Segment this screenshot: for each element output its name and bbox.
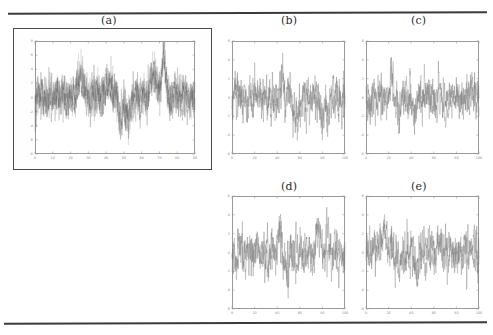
y-tick-label-e-3: 0 (355, 251, 364, 255)
x-tick-label-a-6: 60 (139, 156, 143, 160)
x-tick-label-d-2: 40 (275, 311, 279, 315)
y-tick-label-d-4: 2 (221, 232, 230, 236)
x-tick-label-a-0: 0 (34, 156, 36, 160)
y-tick-label-d-3: 0 (221, 251, 230, 255)
bottom-horizontal-rule (4, 321, 487, 324)
y-tick-label-a-0: -8 (24, 152, 33, 156)
y-tick-label-e-4: 2 (355, 232, 364, 236)
y-tick-label-e-6: 6 (355, 194, 364, 198)
chart-panel-a: 0102030405060708090-8-6-4-202468 (35, 41, 195, 154)
y-tick-label-a-1: -6 (24, 138, 33, 142)
y-tick-label-b-0: -6 (221, 152, 230, 156)
y-tick-label-c-4: 2 (355, 77, 364, 81)
plot-traces-b (232, 41, 345, 154)
x-tick-label-a-7: 70 (157, 156, 161, 160)
caption-e: (e) (411, 180, 427, 193)
x-tick-label-c-1: 20 (386, 156, 390, 160)
x-tick-label-d-5: 100 (342, 311, 348, 315)
trace-b-2 (232, 53, 345, 141)
x-tick-label-e-3: 60 (432, 311, 436, 315)
chart-panel-b: 020406080100-6-4-20246 (232, 41, 345, 154)
y-tick-label-a-3: -2 (24, 110, 33, 114)
figure-page: (a) (b) (c) (d) (e) 0102030405060708090-… (0, 0, 493, 335)
y-tick-label-d-5: 4 (221, 213, 230, 217)
y-tick-label-a-6: 4 (24, 67, 33, 71)
x-tick-label-a-8: 80 (175, 156, 179, 160)
chart-panel-c: 020406080100-6-4-20246 (366, 41, 479, 154)
y-tick-label-b-2: -2 (221, 114, 230, 118)
chart-panel-d: 020406080100-6-4-20246 (232, 196, 345, 309)
y-tick-label-a-2: -4 (24, 124, 33, 128)
y-tick-label-b-1: -4 (221, 133, 230, 137)
y-tick-label-a-8: 8 (24, 39, 33, 43)
x-tick-label-d-3: 60 (298, 311, 302, 315)
x-tick-label-a-1: 10 (51, 156, 55, 160)
y-tick-label-d-2: -2 (221, 269, 230, 273)
x-tick-label-b-5: 100 (342, 156, 348, 160)
caption-b: (b) (281, 14, 297, 27)
y-tick-label-e-1: -4 (355, 288, 364, 292)
trace-e-2 (366, 214, 479, 288)
x-tick-label-a-3: 30 (86, 156, 90, 160)
y-tick-label-b-6: 6 (221, 39, 230, 43)
x-tick-label-b-3: 60 (298, 156, 302, 160)
y-tick-label-d-1: -4 (221, 288, 230, 292)
plot-traces-e (366, 196, 479, 309)
x-tick-label-c-0: 0 (365, 156, 367, 160)
x-tick-label-e-2: 40 (409, 311, 413, 315)
x-tick-label-c-3: 60 (432, 156, 436, 160)
plot-traces-d (232, 196, 345, 309)
plot-traces-c (366, 41, 479, 154)
x-tick-label-e-0: 0 (365, 311, 367, 315)
x-tick-label-d-4: 80 (320, 311, 324, 315)
x-tick-label-b-4: 80 (320, 156, 324, 160)
caption-c: (c) (411, 14, 426, 27)
y-tick-label-e-0: -6 (355, 307, 364, 311)
y-tick-label-b-5: 4 (221, 58, 230, 62)
y-tick-label-a-4: 0 (24, 96, 33, 100)
x-tick-label-c-5: 100 (476, 156, 482, 160)
x-tick-label-b-2: 40 (275, 156, 279, 160)
y-tick-label-c-0: -6 (355, 152, 364, 156)
y-tick-label-d-0: -6 (221, 307, 230, 311)
caption-a: (a) (101, 14, 117, 27)
y-tick-label-a-7: 6 (24, 53, 33, 57)
x-tick-label-a-2: 20 (68, 156, 72, 160)
x-tick-label-d-0: 0 (231, 311, 233, 315)
y-tick-label-b-3: 0 (221, 96, 230, 100)
x-tick-label-b-0: 0 (231, 156, 233, 160)
y-tick-label-b-4: 2 (221, 77, 230, 81)
y-tick-label-d-6: 6 (221, 194, 230, 198)
y-tick-label-e-5: 4 (355, 213, 364, 217)
y-tick-label-c-6: 6 (355, 39, 364, 43)
x-tick-label-d-1: 20 (252, 311, 256, 315)
x-tick-label-c-4: 80 (454, 156, 458, 160)
y-tick-label-c-3: 0 (355, 96, 364, 100)
plot-traces-a (35, 41, 195, 154)
y-tick-label-a-5: 2 (24, 81, 33, 85)
x-tick-label-c-2: 40 (409, 156, 413, 160)
chart-panel-e: 020406080100-6-4-20246 (366, 196, 479, 309)
x-tick-label-b-1: 20 (252, 156, 256, 160)
y-tick-label-c-1: -4 (355, 133, 364, 137)
caption-d: (d) (281, 180, 297, 193)
x-tick-label-e-1: 20 (386, 311, 390, 315)
x-tick-label-e-4: 80 (454, 311, 458, 315)
x-tick-label-e-5: 100 (476, 311, 482, 315)
x-tick-label-a-4: 40 (104, 156, 108, 160)
x-tick-label-a-9: 90 (193, 156, 197, 160)
y-tick-label-e-2: -2 (355, 269, 364, 273)
x-tick-label-a-5: 50 (122, 156, 126, 160)
y-tick-label-c-5: 4 (355, 58, 364, 62)
y-tick-label-c-2: -2 (355, 114, 364, 118)
